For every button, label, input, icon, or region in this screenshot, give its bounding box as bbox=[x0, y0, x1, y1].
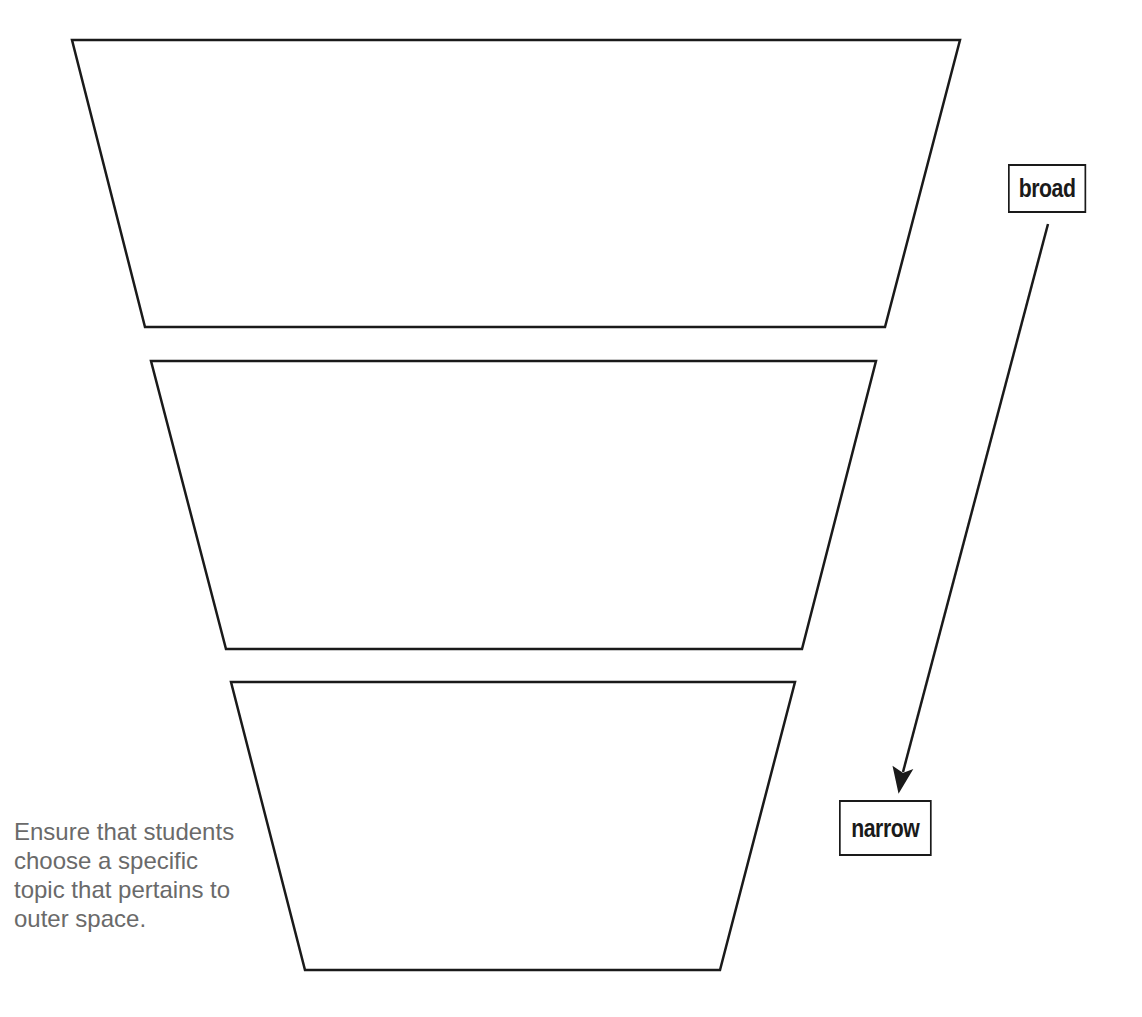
broad-label: broad bbox=[1008, 164, 1086, 213]
narrow-label: narrow bbox=[839, 800, 932, 856]
funnel-level-middle[interactable] bbox=[151, 361, 876, 649]
broad-to-narrow-arrow-icon bbox=[894, 224, 1048, 791]
funnel-level-top[interactable] bbox=[72, 40, 960, 327]
teacher-note: Ensure that students choose a specific t… bbox=[14, 817, 244, 933]
funnel-level-bottom[interactable] bbox=[231, 682, 795, 970]
